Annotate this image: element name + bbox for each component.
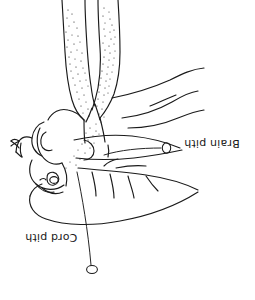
frog-pithing-illustration <box>0 0 255 300</box>
figure-canvas: Brain pith Cord pith <box>0 0 255 300</box>
brain-pith-label: Brain pith <box>184 138 240 149</box>
cord-pith-label: Cord pith <box>25 232 77 243</box>
